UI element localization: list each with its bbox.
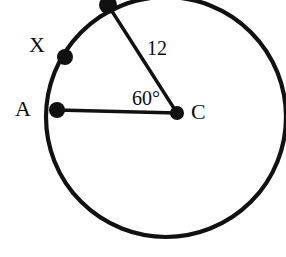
point-label-c: C bbox=[191, 101, 206, 123]
radius-length-label: 12 bbox=[147, 38, 167, 58]
point-label-x: X bbox=[29, 34, 45, 56]
point-dot-a bbox=[49, 102, 65, 118]
point-label-a: A bbox=[15, 98, 31, 120]
geometry-figure: A X C 12 60° bbox=[0, 0, 286, 257]
central-angle-label: 60° bbox=[132, 88, 160, 108]
point-dot-x bbox=[57, 49, 73, 65]
point-dot-c bbox=[170, 106, 184, 120]
